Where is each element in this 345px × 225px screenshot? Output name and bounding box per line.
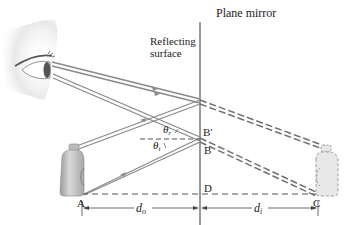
image-bottle bbox=[316, 145, 338, 196]
surface-label-2: surface bbox=[150, 47, 182, 59]
distance-object: do bbox=[136, 201, 146, 216]
plane-mirror-diagram: Plane mirror Reflecting surface B′ B D A… bbox=[0, 0, 345, 225]
angle-incident: θi bbox=[153, 139, 160, 153]
virtual-rays bbox=[200, 100, 322, 196]
distance-image: di bbox=[254, 201, 262, 216]
point-c: C bbox=[313, 197, 320, 209]
point-b: B bbox=[204, 144, 211, 156]
surface-label-1: Reflecting bbox=[150, 35, 196, 47]
point-a: A bbox=[77, 197, 85, 209]
point-d: D bbox=[204, 182, 212, 194]
eye-icon bbox=[2, 20, 57, 100]
point-b-prime: B′ bbox=[203, 126, 213, 138]
mirror-title: Plane mirror bbox=[216, 6, 276, 20]
angle-reflected: θr bbox=[163, 123, 171, 137]
object-bottle bbox=[60, 144, 84, 196]
